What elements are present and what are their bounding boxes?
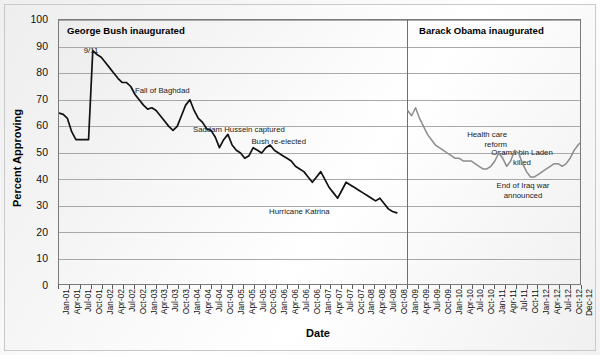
x-axis-tick-mark — [472, 285, 473, 289]
x-axis-tick-mark — [123, 285, 124, 289]
x-axis-tick-mark — [91, 285, 92, 289]
x-axis-tick-label: Jul-05 — [258, 289, 268, 312]
x-axis-tick-label: Oct-02 — [138, 289, 148, 314]
x-axis-tick-mark — [418, 285, 419, 289]
x-axis-tick-mark — [341, 285, 342, 289]
x-axis-tick-label: Apr-04 — [203, 289, 213, 314]
x-axis-tick-label: Jan-11 — [497, 289, 507, 314]
x-axis-tick-label: Oct-07 — [356, 289, 366, 314]
x-axis-tick-mark — [309, 285, 310, 289]
x-axis-tick-label: Jul-07 — [345, 289, 355, 312]
x-axis-tick-mark — [178, 285, 179, 289]
x-axis-tick-mark — [102, 285, 103, 289]
x-axis-tick-label: Oct-06 — [312, 289, 322, 314]
x-axis-tick-label: Jul-08 — [388, 289, 398, 312]
x-axis-tick-label: Oct-05 — [268, 289, 278, 314]
x-axis-tick-mark — [428, 285, 429, 289]
x-axis-tick-mark — [80, 285, 81, 289]
x-axis-tick-mark — [385, 285, 386, 289]
x-axis-tick-mark — [548, 285, 549, 289]
x-axis-tick-mark — [221, 285, 222, 289]
x-axis-tick-label: Jul-09 — [432, 289, 442, 312]
x-axis-tick-mark — [112, 285, 113, 289]
x-axis-tick-label: Apr-09 — [421, 289, 431, 314]
x-axis-tick-mark — [320, 285, 321, 289]
x-axis-tick-label: Apr-12 — [552, 289, 562, 314]
x-axis-tick-label: Jan-05 — [236, 289, 246, 315]
x-axis-tick-label: Jan-04 — [192, 289, 202, 315]
x-axis-tick-label: Apr-03 — [159, 289, 169, 314]
x-axis-tick-label: Apr-11 — [508, 289, 518, 314]
x-axis-tick-mark — [407, 285, 408, 289]
x-axis-tick-label: Oct-09 — [443, 289, 453, 314]
x-axis-tick-label: Jan-10 — [454, 289, 464, 315]
x-axis-tick-label: Oct-04 — [225, 289, 235, 314]
x-axis-tick-mark — [461, 285, 462, 289]
x-axis-tick-mark — [232, 285, 233, 289]
x-axis-tick-mark — [156, 285, 157, 289]
x-axis-tick-mark — [483, 285, 484, 289]
x-axis-tick-mark — [439, 285, 440, 289]
x-axis-tick-mark — [527, 285, 528, 289]
x-axis-tick-label: Apr-01 — [72, 289, 82, 314]
x-axis-tick-mark — [167, 285, 168, 289]
x-axis-tick-label: Apr-02 — [116, 289, 126, 314]
x-axis-tick-mark — [254, 285, 255, 289]
x-axis-tick-mark — [243, 285, 244, 289]
x-axis-tick-label: Jan-06 — [279, 289, 289, 315]
x-axis-tick-mark — [58, 285, 59, 289]
x-axis-tick-label: Apr-08 — [377, 289, 387, 314]
x-axis-tick-mark — [581, 285, 582, 289]
x-axis-tick-label: Jul-01 — [83, 289, 93, 312]
x-axis-tick-label: Dec-12 — [584, 289, 594, 316]
x-axis-tick-mark — [265, 285, 266, 289]
x-axis-tick-mark — [200, 285, 201, 289]
x-axis-tick-label: Oct-11 — [530, 289, 540, 314]
x-axis-tick-label: Apr-10 — [465, 289, 475, 314]
x-axis-tick-labels: Jan-01Apr-01Jul-01Oct-01Jan-02Apr-02Jul-… — [0, 0, 600, 355]
x-axis-tick-mark — [330, 285, 331, 289]
x-axis-tick-label: Apr-05 — [247, 289, 257, 314]
x-axis-tick-mark — [69, 285, 70, 289]
x-axis-tick-mark — [396, 285, 397, 289]
x-axis-tick-label: Jul-02 — [127, 289, 137, 312]
x-axis-tick-label: Jan-12 — [541, 289, 551, 315]
x-axis-tick-label: Oct-10 — [486, 289, 496, 314]
x-axis-tick-label: Jan-02 — [105, 289, 115, 315]
x-axis-tick-label: Jul-04 — [214, 289, 224, 312]
x-axis-tick-label: Jul-12 — [563, 289, 573, 312]
x-axis-tick-label: Jul-10 — [475, 289, 485, 312]
x-axis-tick-label: Jul-11 — [519, 289, 529, 311]
x-axis-tick-mark — [352, 285, 353, 289]
x-axis-tick-label: Apr-07 — [334, 289, 344, 314]
x-axis-tick-mark — [537, 285, 538, 289]
x-axis-tick-mark — [374, 285, 375, 289]
x-axis-tick-mark — [505, 285, 506, 289]
x-axis-tick-label: Apr-06 — [290, 289, 300, 314]
x-axis-tick-mark — [298, 285, 299, 289]
x-axis-tick-mark — [276, 285, 277, 289]
x-axis-tick-mark — [559, 285, 560, 289]
x-axis-tick-label: Jan-01 — [61, 289, 71, 315]
x-axis-tick-mark — [134, 285, 135, 289]
x-axis-tick-label: Jan-03 — [149, 289, 159, 315]
x-axis-tick-label: Jul-03 — [170, 289, 180, 312]
x-axis-tick-mark — [450, 285, 451, 289]
x-axis-tick-label: Oct-08 — [399, 289, 409, 314]
x-axis-tick-label: Oct-12 — [574, 289, 584, 314]
x-axis-tick-mark — [363, 285, 364, 289]
x-axis-tick-label: Jan-07 — [323, 289, 333, 315]
x-axis-tick-label: Jul-06 — [301, 289, 311, 312]
x-axis-tick-mark — [494, 285, 495, 289]
x-axis-tick-label: Jan-08 — [366, 289, 376, 315]
x-axis-tick-mark — [516, 285, 517, 289]
x-axis-tick-mark — [287, 285, 288, 289]
x-axis-tick-label: Oct-01 — [94, 289, 104, 314]
x-axis-tick-mark — [189, 285, 190, 289]
x-axis-title: Date — [268, 327, 368, 339]
x-axis-tick-mark — [211, 285, 212, 289]
x-axis-tick-label: Jan-09 — [410, 289, 420, 315]
x-axis-tick-label: Oct-03 — [181, 289, 191, 314]
chart-figure: Percent Approving 0102030405060708090100… — [0, 0, 600, 355]
x-axis-tick-mark — [145, 285, 146, 289]
